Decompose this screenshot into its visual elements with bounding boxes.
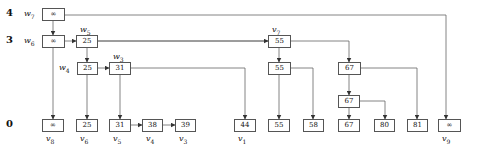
node-label-v8: v8 xyxy=(46,134,54,146)
level-label: 0 xyxy=(6,119,13,129)
node-label-v9: v9 xyxy=(442,134,450,146)
node-box-w4: 25 xyxy=(77,62,98,75)
node-box-v8: ∞ xyxy=(42,119,64,132)
node-box-n55b: 55 xyxy=(268,62,291,75)
node-box-b67: 67 xyxy=(338,119,360,132)
edge-arrow xyxy=(360,101,385,119)
node-box-v1: 44 xyxy=(234,119,256,132)
node-label-v3: v3 xyxy=(179,134,187,146)
node-label-v4: v4 xyxy=(146,134,154,146)
node-box-w5: 25 xyxy=(76,35,98,48)
edge-arrow xyxy=(291,68,313,119)
node-box-b81: 81 xyxy=(407,119,428,132)
edge-arrow xyxy=(131,68,245,119)
node-label-w4: w4 xyxy=(59,63,70,75)
edge-arrow xyxy=(361,68,417,119)
node-label-w5: w5 xyxy=(80,25,91,37)
edge-arrow xyxy=(291,41,349,62)
node-box-b80: 80 xyxy=(374,119,395,132)
node-box-v4: 38 xyxy=(142,119,163,132)
tree-diagram: 430 ∞w7∞w625w525w431w355v7556767∞v825v63… xyxy=(0,0,477,152)
node-box-v9: ∞ xyxy=(438,119,461,132)
node-label-w7: w7 xyxy=(24,9,35,21)
node-box-n67b: 67 xyxy=(338,95,360,108)
node-box-w7: ∞ xyxy=(42,8,65,21)
node-label-v7: v7 xyxy=(272,25,280,37)
node-box-v5: 31 xyxy=(109,119,131,132)
node-label-w6: w6 xyxy=(24,36,35,48)
node-box-v7: 55 xyxy=(268,35,291,48)
node-box-v6: 25 xyxy=(76,119,98,132)
level-label: 3 xyxy=(6,35,13,45)
node-box-w3: 31 xyxy=(109,62,131,75)
node-label-v6: v6 xyxy=(80,134,88,146)
level-label: 4 xyxy=(6,8,13,18)
node-label-w3: w3 xyxy=(113,52,124,64)
node-box-w6: ∞ xyxy=(42,35,65,48)
node-label-v5: v5 xyxy=(113,134,121,146)
node-box-n67a: 67 xyxy=(338,62,361,75)
node-box-v3: 39 xyxy=(175,119,196,132)
node-box-b58: 58 xyxy=(303,119,324,132)
node-box-b55: 55 xyxy=(268,119,290,132)
node-label-v1: v1 xyxy=(238,134,246,146)
